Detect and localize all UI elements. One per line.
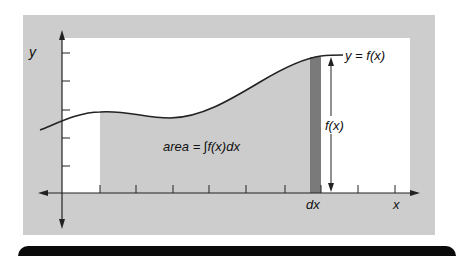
x-axis-label: x [392, 197, 400, 212]
bottom-bar [18, 246, 456, 256]
y-axis-label: y [28, 44, 37, 60]
dx-label: dx [306, 197, 320, 212]
height-label: f(x) [325, 118, 344, 133]
area-label: area = ∫f(x)dx [163, 139, 240, 154]
dx-strip [310, 57, 321, 193]
curve-label: y = f(x) [344, 48, 385, 63]
